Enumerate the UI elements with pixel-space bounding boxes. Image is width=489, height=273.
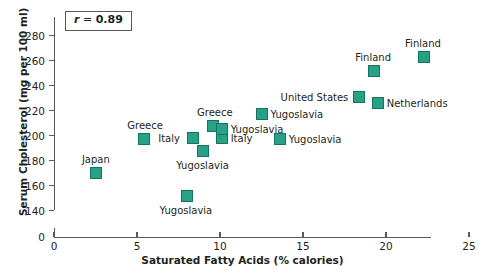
data-point-label: Finland [405,39,441,49]
data-point-marker [353,91,365,103]
data-point-label: Japan [82,155,110,165]
x-tick-mark [468,232,469,237]
data-point-marker [187,132,199,144]
data-point-marker [138,133,150,145]
data-point-marker [368,65,380,77]
data-point-marker [197,145,209,157]
y-tick-mark [49,60,54,61]
y-tick-mark [49,35,54,36]
y-tick-mark [49,160,54,161]
x-tick-label: 15 [288,240,318,252]
y-tick-mark [49,85,54,86]
x-tick-label: 25 [454,240,484,252]
y-axis-line-upper [54,17,55,210]
x-tick-mark [219,232,220,237]
y-tick-mark [49,210,54,211]
y-tick-mark [49,135,54,136]
data-point-label: Yugoslavia [271,110,324,120]
data-point-label: Yugoslavia [289,135,342,145]
data-point-marker [256,108,268,120]
x-tick-mark [302,232,303,237]
correlation-operator: = [83,13,92,26]
correlation-annotation: r = 0.89 [65,11,132,31]
x-tick-mark [385,232,386,237]
x-axis-title: Saturated Fatty Acids (% calories) [54,254,431,266]
data-point-label: Greece [127,121,163,131]
data-point-marker [418,51,430,63]
data-point-label: Greece [197,108,233,118]
y-tick-mark [49,185,54,186]
x-tick-label: 20 [371,240,401,252]
data-point-marker [372,97,384,109]
x-axis-line [54,237,431,238]
data-point-label: Finland [355,53,391,63]
scatter-plot: 0510152025 0140160180200220240260280 Ser… [0,0,489,273]
data-point-label: Italy [231,134,253,144]
y-tick-label: 0 [19,231,45,243]
correlation-value: 0.89 [96,13,123,26]
data-point-label: United States [281,93,349,103]
x-tick-mark [136,232,137,237]
data-point-marker [90,167,102,179]
data-point-label: Italy [158,134,180,144]
correlation-symbol: r [74,13,79,26]
data-point-marker [181,190,193,202]
data-point-label: Netherlands [387,99,448,109]
data-point-label: Yugoslavia [160,206,213,216]
y-tick-mark [49,110,54,111]
y-axis-title: Serum Cholesterol (mg per 100 ml) [17,16,29,216]
data-point-marker [274,133,286,145]
x-tick-mark [53,232,54,237]
x-tick-label: 10 [205,240,235,252]
x-tick-label: 5 [122,240,152,252]
data-point-label: Yugoslavia [176,161,229,171]
data-point-marker [216,123,228,135]
